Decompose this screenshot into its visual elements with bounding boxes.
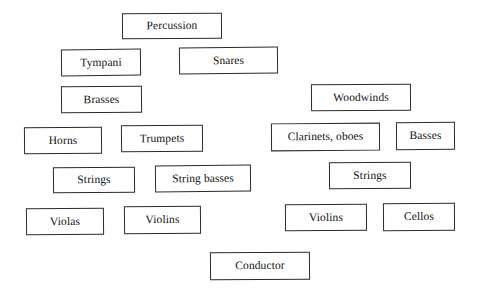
- node-label: Basses: [410, 130, 442, 142]
- node-strings-left: Strings: [53, 167, 135, 194]
- node-string-basses: String basses: [155, 165, 251, 193]
- node-tympani: Tympani: [61, 49, 141, 77]
- node-violas: Violas: [26, 208, 104, 236]
- node-cellos: Cellos: [383, 203, 455, 232]
- node-label: Strings: [353, 170, 386, 182]
- node-label: Clarinets, oboes: [288, 131, 364, 143]
- node-label: Tympani: [80, 57, 122, 69]
- node-label: Woodwinds: [333, 92, 389, 104]
- orchestra-diagram-canvas: PercussionTympaniSnaresBrassesWoodwindsH…: [0, 0, 481, 295]
- node-trumpets: Trumpets: [121, 125, 203, 153]
- node-label: Cellos: [404, 211, 434, 223]
- node-violins-left: Violins: [124, 206, 201, 235]
- node-conductor: Conductor: [210, 252, 310, 281]
- node-clarinets-oboes: Clarinets, oboes: [271, 123, 380, 152]
- node-label: Brasses: [84, 94, 120, 106]
- node-label: Snares: [213, 55, 244, 67]
- node-percussion: Percussion: [122, 13, 222, 40]
- node-brasses: Brasses: [61, 86, 142, 114]
- node-violins-right: Violins: [285, 204, 367, 232]
- node-label: Horns: [49, 135, 78, 147]
- node-label: Violas: [50, 216, 80, 228]
- node-label: Violins: [146, 214, 180, 226]
- node-label: Percussion: [147, 20, 198, 32]
- node-label: Violins: [309, 212, 343, 224]
- node-horns: Horns: [24, 127, 102, 155]
- node-strings-right: Strings: [329, 162, 411, 190]
- node-label: String basses: [172, 172, 234, 184]
- node-basses: Basses: [396, 122, 455, 150]
- node-label: Strings: [77, 174, 110, 186]
- node-label: Conductor: [235, 260, 285, 272]
- node-snares: Snares: [179, 47, 278, 75]
- node-woodwinds: Woodwinds: [311, 84, 411, 112]
- node-label: Trumpets: [140, 133, 185, 145]
